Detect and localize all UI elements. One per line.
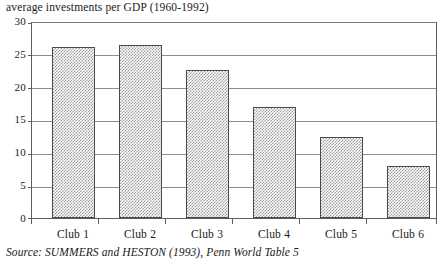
y-axis-label-20: 20: [0, 82, 26, 93]
y-tick-5: [28, 187, 32, 188]
source-note: Source: SUMMERS and HESTON (1993), Penn …: [6, 246, 299, 259]
y-tick-15: [28, 121, 32, 122]
y-axis-label-0: 0: [0, 213, 26, 224]
bar-club-5: [320, 137, 363, 218]
x-tick-6: [436, 219, 437, 224]
plot-area: [31, 22, 437, 219]
y-tick-10: [28, 154, 32, 155]
x-tick-0: [31, 219, 32, 224]
x-tick-3: [232, 219, 233, 224]
y-tick-25: [28, 55, 32, 56]
y-axis-label-5: 5: [0, 180, 26, 191]
x-axis-label-club-6: Club 6: [368, 228, 447, 241]
y-axis-label-15: 15: [0, 114, 26, 125]
x-tick-1: [98, 219, 99, 224]
y-tick-20: [28, 88, 32, 89]
bar-club-4: [253, 107, 296, 218]
bar-club-3: [186, 70, 229, 218]
x-tick-4: [299, 219, 300, 224]
chart-title: average investments per GDP (1960-1992): [6, 1, 209, 14]
bar-club-6: [387, 166, 430, 218]
bar-club-2: [119, 45, 162, 218]
bar-club-1: [52, 47, 95, 218]
y-axis-label-30: 30: [0, 16, 26, 27]
y-tick-30: [28, 23, 32, 24]
y-axis-label-25: 25: [0, 49, 26, 60]
y-axis-label-10: 10: [0, 147, 26, 158]
x-tick-2: [165, 219, 166, 224]
x-tick-5: [366, 219, 367, 224]
bar-chart-figure: average investments per GDP (1960-1992) …: [0, 0, 447, 264]
